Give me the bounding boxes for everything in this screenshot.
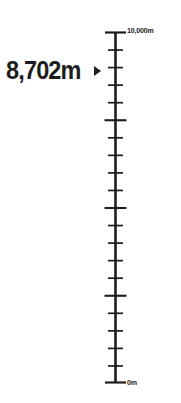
callout-value-label: 8,702m [6, 58, 81, 83]
altitude-callout: 8,702m [6, 56, 101, 84]
altitude-scale-figure: 10,000m 0m 8,702m [0, 0, 181, 403]
right-triangle-marker-icon [94, 66, 101, 76]
axis-label-max: 10,000m [127, 27, 154, 35]
axis-label-min: 0m [127, 379, 137, 387]
